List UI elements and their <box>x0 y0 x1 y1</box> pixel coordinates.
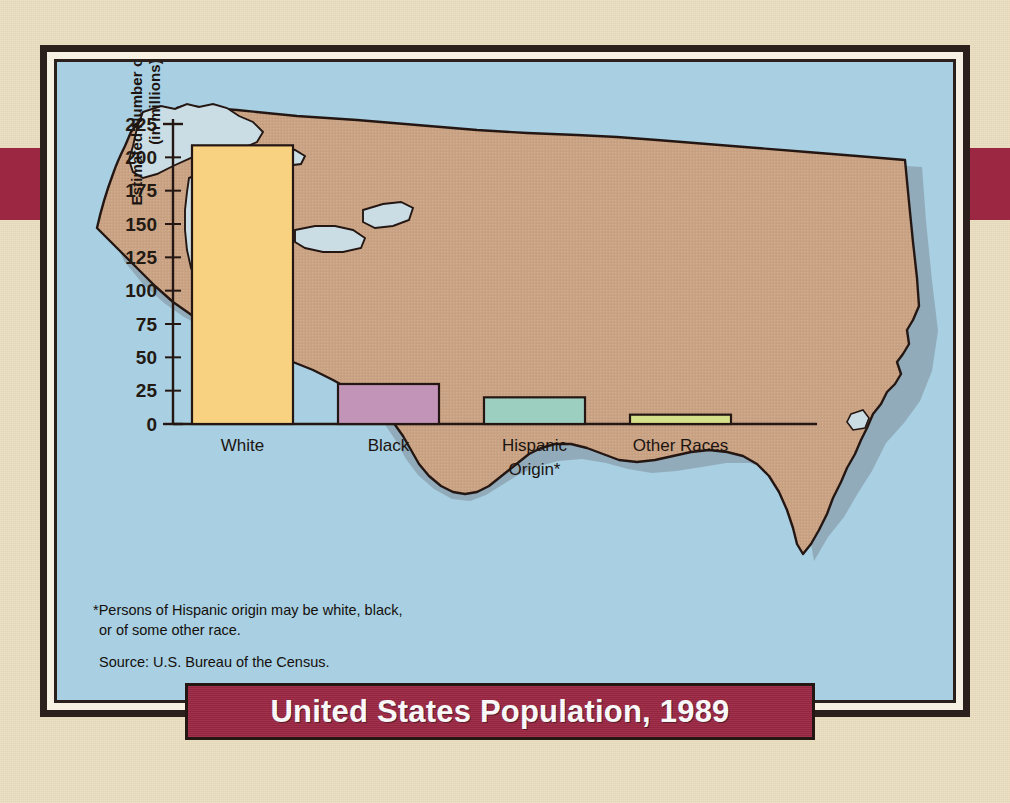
category-label-2-1: Origin* <box>509 460 561 479</box>
category-label-1-0: Black <box>368 436 410 455</box>
map-canvas: 0255075100125150175200225 WhiteBlackHisp… <box>57 62 953 700</box>
y-axis-title: Estimated Number of People (in millions) <box>128 62 163 212</box>
footnotes-block: *Persons of Hispanic origin may be white… <box>93 601 563 673</box>
poster-frame: 0255075100125150175200225 WhiteBlackHisp… <box>40 45 970 717</box>
category-label-0-0: White <box>221 436 264 455</box>
y-tick-label-0: 0 <box>146 414 157 435</box>
footnote-hispanic-line1: *Persons of Hispanic origin may be white… <box>93 602 402 618</box>
bar-other-races <box>630 415 731 424</box>
y-tick-label-25: 25 <box>136 380 158 401</box>
y-axis-title-line1: Estimated Number of People <box>128 62 145 205</box>
frame-inner-border: 0255075100125150175200225 WhiteBlackHisp… <box>54 59 956 703</box>
y-axis-title-line2: (in millions) <box>146 62 163 145</box>
footnote-hispanic-line2: or of some other race. <box>93 621 563 641</box>
category-label-2-0: Hispanic <box>502 436 568 455</box>
y-tick-label-150: 150 <box>125 214 157 235</box>
y-tick-label-100: 100 <box>125 280 157 301</box>
y-tick-label-75: 75 <box>136 314 158 335</box>
category-labels: WhiteBlackHispanicOrigin*Other Races <box>221 436 728 479</box>
bar-white <box>192 145 293 424</box>
bar-black <box>338 384 439 424</box>
page-title: United States Population, 1989 <box>270 694 729 730</box>
category-label-3-0: Other Races <box>633 436 728 455</box>
title-banner: United States Population, 1989 <box>185 683 815 740</box>
y-tick-label-50: 50 <box>136 347 157 368</box>
y-tick-label-125: 125 <box>125 247 157 268</box>
footnote-source: Source: U.S. Bureau of the Census. <box>93 653 563 673</box>
frame-cream-band: 0255075100125150175200225 WhiteBlackHisp… <box>47 52 963 710</box>
bars-group <box>192 145 731 424</box>
footnote-hispanic: *Persons of Hispanic origin may be white… <box>93 601 563 640</box>
bar-hispanic-origin <box>484 397 585 424</box>
